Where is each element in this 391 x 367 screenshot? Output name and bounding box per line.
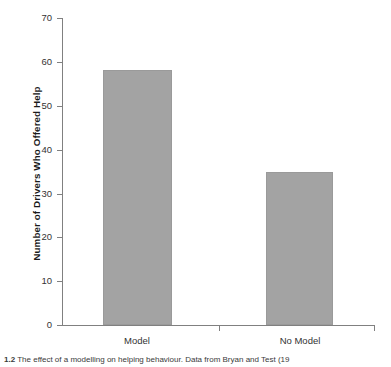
x-axis-tick: [219, 326, 220, 331]
y-axis-tick-label: 70: [12, 13, 52, 22]
figure-caption-text: The effect of a modelling on helping beh…: [17, 355, 289, 364]
y-axis-tick-label: 0: [12, 320, 52, 329]
y-axis-tick: [57, 62, 63, 63]
bar-chart-figure: 70 60 50 40 30 20 10 0 Model No Model Nu…: [0, 0, 391, 367]
y-axis-tick: [57, 150, 63, 151]
figure-caption: 1.2 The effect of a modelling on helping…: [4, 355, 391, 365]
x-axis-label-no-model: No Model: [260, 335, 340, 346]
x-axis-tick: [374, 326, 375, 331]
y-axis-tick: [57, 281, 63, 282]
y-axis-tick: [57, 18, 63, 19]
y-axis-line: [62, 18, 63, 326]
figure-caption-number: 1.2: [4, 355, 15, 364]
y-axis-tick: [57, 194, 63, 195]
x-axis-label-model: Model: [97, 335, 177, 346]
y-axis-title: Number of Drivers Who Offered Help: [31, 54, 42, 294]
y-axis-tick: [57, 106, 63, 107]
plot-area: 70 60 50 40 30 20 10 0 Model No Model Nu…: [0, 0, 391, 367]
y-axis-tick: [57, 237, 63, 238]
bar-no-model: [266, 172, 333, 325]
y-axis-tick: [57, 325, 63, 326]
bar-model: [103, 70, 172, 325]
